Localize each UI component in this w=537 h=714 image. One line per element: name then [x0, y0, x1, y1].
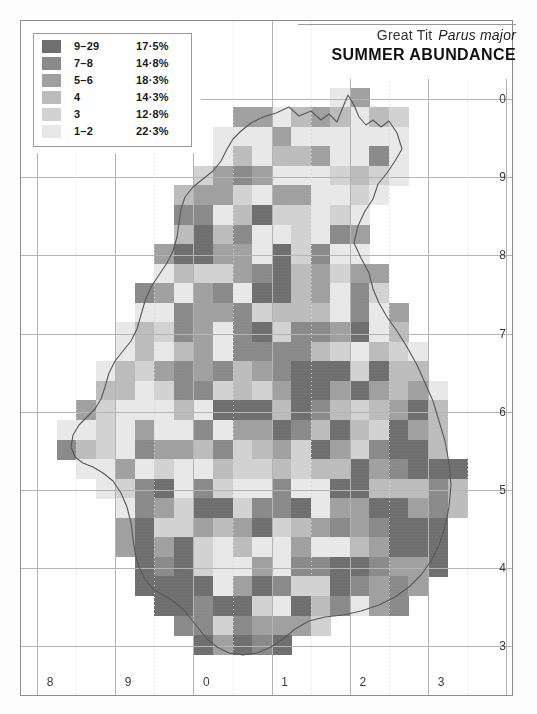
- legend-percent-label: 14·3%: [136, 91, 185, 104]
- legend-row: 312·8%: [34, 106, 191, 123]
- species-name: Great TitParus major: [332, 27, 516, 44]
- axis-label-x: 2: [356, 676, 370, 688]
- legend-category-label: 9–29: [74, 40, 136, 53]
- map-subtitle: SUMMER ABUNDANCE: [332, 45, 516, 64]
- title-divider: [298, 24, 516, 25]
- axis-label-y: 6: [499, 406, 506, 418]
- legend-category-label: 5–6: [74, 74, 136, 87]
- axis-label-y: 5: [499, 484, 506, 496]
- legend-swatch: [42, 91, 61, 104]
- species-common-name: Great Tit: [377, 27, 432, 43]
- legend-swatch: [42, 57, 61, 70]
- axis-label-x: 8: [43, 676, 57, 688]
- axis-label-x: 9: [121, 676, 135, 688]
- legend-swatch: [42, 125, 61, 138]
- legend-swatch: [42, 108, 61, 121]
- title-block: Great TitParus major SUMMER ABUNDANCE: [322, 27, 516, 64]
- legend-swatch: [42, 40, 61, 53]
- figure-canvas: Great TitParus major SUMMER ABUNDANCE 9–…: [0, 0, 537, 714]
- axis-label-y: 8: [499, 249, 506, 261]
- axis-label-y: 9: [499, 171, 506, 183]
- axis-label-y: 4: [499, 562, 506, 574]
- axis-label-y: 7: [499, 328, 506, 340]
- legend-category-label: 1–2: [74, 125, 136, 138]
- axis-label-y: 0: [499, 93, 506, 105]
- legend-swatch: [42, 74, 61, 87]
- legend-row: 9–2917·5%: [34, 38, 191, 55]
- legend-box: 9–2917·5%7–814·8%5–618·3%414·3%312·8%1–2…: [33, 33, 192, 147]
- axis-label-x: 1: [278, 676, 292, 688]
- legend-percent-label: 12·8%: [136, 108, 185, 121]
- legend-percent-label: 14·8%: [136, 57, 185, 70]
- species-scientific-name: Parus major: [438, 27, 516, 43]
- legend-category-label: 3: [74, 108, 136, 121]
- axis-label-y: 3: [499, 640, 506, 652]
- axis-label-x: 0: [199, 676, 213, 688]
- legend-percent-label: 17·5%: [136, 40, 185, 53]
- legend-percent-label: 18·3%: [136, 74, 185, 87]
- legend-row: 1–222·3%: [34, 123, 191, 140]
- axis-label-x: 3: [434, 676, 448, 688]
- legend-row: 414·3%: [34, 89, 191, 106]
- legend-row: 7–814·8%: [34, 55, 191, 72]
- legend-row: 5–618·3%: [34, 72, 191, 89]
- legend-category-label: 4: [74, 91, 136, 104]
- legend-percent-label: 22·3%: [136, 125, 185, 138]
- legend-category-label: 7–8: [74, 57, 136, 70]
